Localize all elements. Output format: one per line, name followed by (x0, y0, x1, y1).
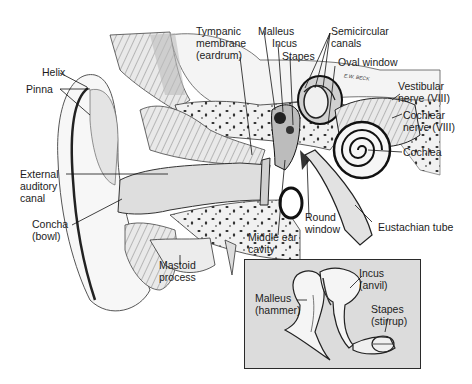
inset-label-stapes: Stapes (stirrup) (371, 303, 407, 327)
label-mastoid-process: Mastoid process (159, 259, 196, 283)
stapes-bone (353, 336, 395, 354)
inset-label-malleus: Malleus (hammer) (255, 292, 301, 316)
label-cochlea: Cochlea (403, 146, 442, 158)
label-semicircular-canals: Semicircular canals (331, 25, 389, 49)
ossicles-inset: Malleus (hammer) Incus (anvil) Stapes (s… (244, 259, 421, 369)
label-stapes: Stapes (282, 50, 315, 62)
label-tympanic-membrane: Tympanic membrane (eardrum) (196, 25, 246, 61)
label-vestibular-nerve: Vestibular nerve (VIII) (398, 80, 450, 104)
label-helix: Helix (42, 66, 65, 78)
label-cochlear-nerve: Cochlear nerve (VIII) (403, 109, 455, 133)
ear-anatomy-figure: E.W. BECK Helix Pinna External auditory … (0, 0, 472, 384)
inset-label-incus: Incus (anvil) (359, 267, 388, 291)
tympanic-membrane-shape (260, 158, 270, 205)
middle-ear-cavity-shape (280, 188, 302, 218)
incus-bone (320, 268, 361, 348)
label-malleus: Malleus (258, 25, 294, 37)
label-incus: Incus (272, 37, 297, 49)
label-pinna: Pinna (26, 83, 53, 95)
cochlea-shape (334, 122, 390, 178)
label-oval-window: Oval window (338, 56, 398, 68)
label-round-window: Round window (305, 211, 340, 235)
label-external-auditory-canal: External auditory canal (20, 168, 59, 204)
semicircular-canals-shape (298, 76, 342, 124)
label-middle-ear-cavity: Middle ear cavity (248, 231, 297, 255)
label-concha: Concha (bowl) (32, 218, 68, 242)
label-eustachian-tube: Eustachian tube (378, 221, 453, 233)
